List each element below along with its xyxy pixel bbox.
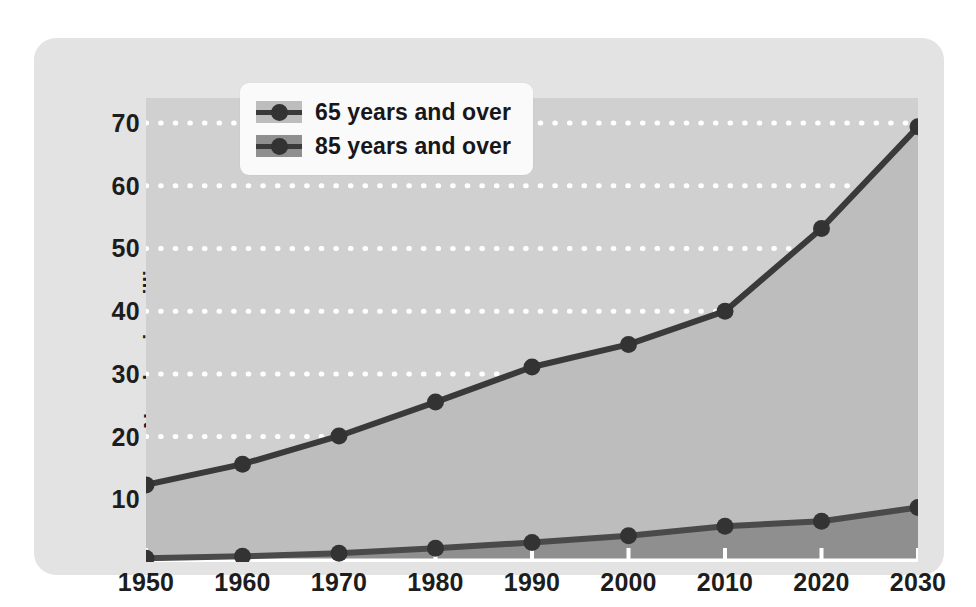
y-tick-label: 50 [112,234,140,263]
x-tick-label: 1990 [504,568,560,597]
x-tick-label: 2000 [600,568,656,597]
x-tick-label: 2010 [697,568,753,597]
legend-swatch-icon-65 [256,101,302,123]
y-axis-ticks: 10203040506070 [80,98,140,562]
chart-panel: Number in millions 10203040506070 195019… [34,38,944,575]
x-tick-label: 2030 [890,568,946,597]
x-tick-label: 1950 [118,568,174,597]
y-tick-label: 30 [112,359,140,388]
y-tick-label: 40 [112,297,140,326]
legend-swatch-icon-85 [256,135,302,157]
y-tick-label: 60 [112,171,140,200]
chart-legend: 65 years and over 85 years and over [240,83,533,175]
legend-label-65: 65 years and over [315,99,511,126]
legend-item-85-years-and-over: 85 years and over [256,129,511,163]
legend-swatch-marker-icon [271,104,288,121]
x-tick-label: 1970 [311,568,367,597]
x-tick-label: 1980 [407,568,463,597]
x-axis-ticks: 195019601970198019902000201020202030 [146,568,918,607]
legend-item-65-years-and-over: 65 years and over [256,95,511,129]
y-tick-label: 70 [112,109,140,138]
y-tick-label: 10 [112,485,140,514]
x-tick-label: 1960 [214,568,270,597]
legend-label-85: 85 years and over [315,133,511,160]
chart-figure: Number in millions 10203040506070 195019… [0,0,976,607]
x-tick-label: 2020 [793,568,849,597]
y-tick-label: 20 [112,422,140,451]
legend-swatch-marker-icon [271,138,288,155]
area-fills-group [146,127,918,562]
